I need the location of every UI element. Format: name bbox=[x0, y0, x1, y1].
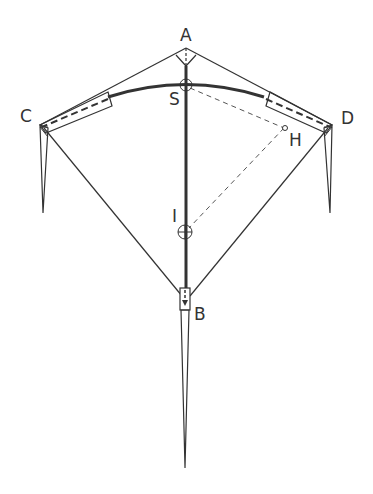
kite-diagram: A S C D H I B bbox=[0, 0, 373, 494]
label-c: C bbox=[20, 106, 32, 126]
label-s: S bbox=[169, 89, 180, 109]
label-i: I bbox=[172, 206, 177, 226]
point-i-marker bbox=[178, 225, 192, 239]
label-b: B bbox=[194, 304, 206, 324]
edge-d-b bbox=[190, 128, 328, 296]
label-h: H bbox=[289, 130, 302, 150]
right-sleeve-dashed bbox=[266, 99, 330, 127]
dashed-h-i bbox=[189, 128, 284, 228]
right-corner-stake bbox=[324, 125, 332, 213]
edge-c-b bbox=[44, 128, 182, 296]
point-h-marker bbox=[283, 126, 288, 131]
label-d: D bbox=[341, 108, 354, 128]
left-corner-stake bbox=[40, 125, 48, 213]
tail-stake bbox=[181, 310, 189, 468]
label-a: A bbox=[180, 25, 192, 45]
left-sleeve-dashed bbox=[42, 99, 108, 127]
